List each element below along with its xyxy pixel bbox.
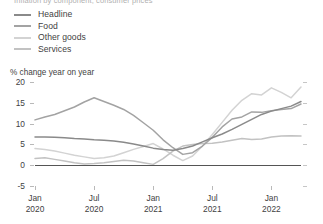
series-lines [35,82,301,186]
x-tick-mark [212,186,213,190]
y-tick-mark-right [303,82,307,83]
y-tick-label: 15 [3,98,25,108]
x-tick-month: Jul [192,193,232,204]
legend-swatch-services [14,48,31,50]
legend-swatch-headline [14,14,31,16]
y-tick-label: 0 [3,160,25,170]
legend-item-services[interactable]: Services [14,44,86,56]
y-tick-mark [30,165,34,166]
x-tick-year: 2020 [15,204,55,215]
legend-item-other-goods[interactable]: Other goods [14,32,86,44]
y-axis-caption: % change year on year [10,68,94,77]
chart-container: Inflation by component, consumer prices … [0,0,323,224]
series-line-food [35,98,301,155]
x-tick-label: Jan2021 [133,193,173,214]
y-tick-mark [30,186,34,187]
x-tick-mark [153,186,154,190]
x-tick-label: Jan2022 [251,193,291,214]
x-tick-year: 2021 [192,204,232,215]
x-tick-mark [271,186,272,190]
y-tick-mark [30,124,34,125]
x-tick-year: 2020 [74,204,114,215]
y-tick-mark-right [303,165,307,166]
zero-line [35,165,301,166]
x-tick-label: Jul2021 [192,193,232,214]
y-tick-mark [30,144,34,145]
legend-label-services: Services [38,44,71,56]
legend-swatch-other-goods [14,37,31,39]
y-tick-mark-right [303,186,307,187]
y-tick-label: 20 [3,77,25,87]
x-tick-month: Jan [133,193,173,204]
y-tick-label: -5 [3,181,25,191]
x-tick-year: 2022 [251,204,291,215]
legend-label-other-goods: Other goods [38,32,86,44]
y-tick-mark-right [303,103,307,104]
y-tick-label: 5 [3,139,25,149]
plot-area [35,82,301,186]
x-tick-mark [94,186,95,190]
chart-title: Inflation by component, consumer prices [14,0,153,5]
x-tick-label: Jul2020 [74,193,114,214]
legend-swatch-food [14,25,31,27]
y-tick-label: 10 [3,119,25,129]
y-tick-mark-right [303,144,307,145]
legend-label-headline: Headline [38,9,72,21]
y-tick-mark [30,82,34,83]
x-tick-year: 2021 [133,204,173,215]
x-tick-mark [35,186,36,190]
x-tick-month: Jan [251,193,291,204]
legend-item-headline[interactable]: Headline [14,9,86,21]
legend-item-food[interactable]: Food [14,21,86,33]
y-tick-mark-right [303,124,307,125]
y-tick-mark [30,103,34,104]
chart-legend: Headline Food Other goods Services [14,9,86,55]
legend-label-food: Food [38,21,58,33]
x-tick-label: Jan2020 [15,193,55,214]
x-tick-month: Jan [15,193,55,204]
x-tick-month: Jul [74,193,114,204]
